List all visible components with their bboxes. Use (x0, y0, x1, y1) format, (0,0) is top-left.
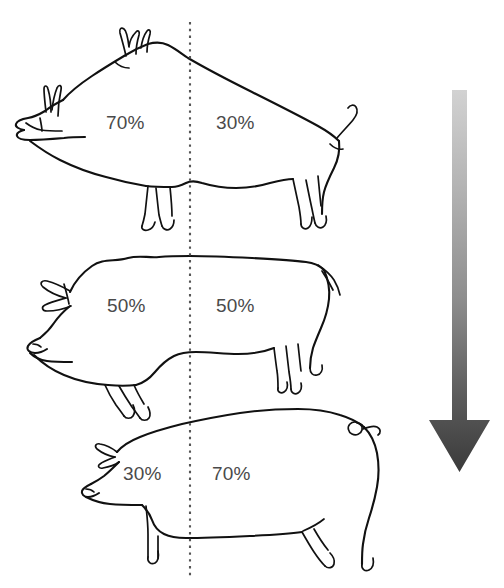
modern-pig-front-percent: 30% (123, 464, 162, 483)
traditional-pig-front-percent: 50% (107, 296, 146, 315)
boar-rear-percent: 30% (216, 113, 255, 132)
modern-pig-rear-percent: 70% (212, 464, 251, 483)
traditional-pig-rear-percent: 50% (216, 296, 255, 315)
figure-canvas: 70% 30% 50% 50% 30% 70% (0, 0, 504, 588)
overlay-graphics (0, 0, 504, 588)
boar-front-percent: 70% (106, 113, 145, 132)
trend-arrow-down (429, 90, 490, 472)
